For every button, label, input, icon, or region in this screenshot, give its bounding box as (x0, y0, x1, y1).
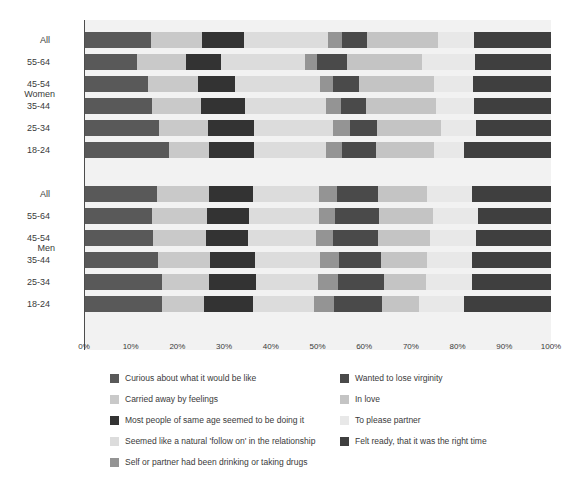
bar-segment (148, 76, 198, 92)
bar-row (84, 98, 551, 114)
x-tick-label: 50% (298, 342, 338, 351)
bar-segment (208, 120, 255, 136)
legend-item[interactable]: Most people of same age seemed to be doi… (110, 410, 315, 431)
legend-swatch-icon (340, 437, 349, 446)
bar-segment (209, 186, 253, 202)
bar-segment (333, 230, 378, 246)
bar-row (84, 54, 551, 70)
legend-swatch-icon (340, 416, 349, 425)
bar-segment (335, 208, 379, 224)
bar-segment (84, 252, 158, 268)
legend-swatch-icon (110, 458, 119, 467)
category-label-women-18-24: 18-24 (0, 145, 50, 155)
bar-segment (472, 186, 551, 202)
stacked-bar-chart: All55-6445-5435-4425-3418-24All55-6445-5… (0, 0, 569, 486)
bar-segment (209, 274, 256, 290)
bar-segment (347, 54, 422, 70)
bar-segment (84, 98, 152, 114)
category-label-men-45-54: 45-54 (0, 233, 50, 243)
bar-segment (162, 274, 210, 290)
bar-segment (157, 186, 209, 202)
bar-segment (475, 54, 551, 70)
bar-segment (436, 98, 474, 114)
x-tick-label: 30% (204, 342, 244, 351)
legend-item[interactable]: Seemed like a natural 'follow on' in the… (110, 431, 315, 452)
bar-segment (253, 186, 319, 202)
bar-segment (207, 208, 249, 224)
legend-item[interactable]: Wanted to lose virginity (340, 368, 487, 389)
bar-segment (84, 186, 157, 202)
x-axis-ticks: 0%10%20%30%40%50%60%70%80%90%100% (0, 342, 569, 356)
bar-segment (318, 274, 338, 290)
bar-segment (337, 186, 378, 202)
bar-segment (254, 142, 326, 158)
bar-segment (316, 230, 333, 246)
legend-item[interactable]: Carried away by feelings (110, 389, 315, 410)
bar-segment (202, 32, 244, 48)
bar-segment (317, 54, 347, 70)
bar-segment (464, 142, 551, 158)
bar-row (84, 76, 551, 92)
legend-item[interactable]: To please partner (340, 410, 487, 431)
bar-segment (342, 32, 367, 48)
x-tick-label: 10% (111, 342, 151, 351)
legend-item[interactable]: Curious about what it would be like (110, 368, 315, 389)
bar-segment (382, 296, 419, 312)
bar-segment (201, 98, 245, 114)
legend-swatch-icon (110, 374, 119, 383)
bar-segment (350, 120, 377, 136)
category-label-women-55-64: 55-64 (0, 57, 50, 67)
bar-segment (84, 54, 137, 70)
plot-area (84, 20, 551, 350)
bar-segment (326, 142, 342, 158)
x-tick-label: 70% (391, 342, 431, 351)
bar-segment (254, 120, 332, 136)
category-label-women-All: All (0, 35, 50, 45)
bar-segment (319, 186, 337, 202)
x-tick-label: 20% (157, 342, 197, 351)
x-tick-label: 0% (64, 342, 104, 351)
bar-segment (378, 186, 427, 202)
legend-label: Felt ready, that it was the right time (355, 437, 487, 446)
legend-item[interactable]: In love (340, 389, 487, 410)
legend-label: Carried away by feelings (125, 395, 218, 404)
bar-segment (472, 274, 551, 290)
bar-segment (159, 120, 208, 136)
bar-segment (158, 252, 209, 268)
bar-segment (84, 142, 169, 158)
bar-segment (84, 208, 152, 224)
bar-segment (152, 98, 201, 114)
bar-segment (305, 54, 317, 70)
legend-label: Curious about what it would be like (125, 374, 256, 383)
legend-swatch-icon (340, 374, 349, 383)
legend-label: In love (355, 395, 380, 404)
bar-segment (320, 76, 333, 92)
legend-item[interactable]: Self or partner had been drinking or tak… (110, 452, 315, 473)
bar-segment (433, 208, 478, 224)
bar-segment (210, 252, 255, 268)
bar-segment (84, 274, 162, 290)
bar-segment (430, 230, 477, 246)
bar-segment (474, 98, 551, 114)
bar-segment (84, 296, 162, 312)
bar-segment (333, 120, 350, 136)
legend-label: Self or partner had been drinking or tak… (125, 458, 307, 467)
legend-column-right: Wanted to lose virginityIn loveTo please… (340, 368, 487, 452)
bar-row (84, 296, 551, 312)
bar-segment (366, 98, 436, 114)
legend-label: Most people of same age seemed to be doi… (125, 416, 304, 425)
bar-segment (162, 296, 204, 312)
group-label-men: Men (0, 243, 55, 253)
bar-segment (253, 296, 314, 312)
bar-segment (221, 54, 305, 70)
x-tick-label: 40% (251, 342, 291, 351)
plot-wrapper: All55-6445-5435-4425-3418-24All55-6445-5… (0, 10, 569, 340)
bar-segment (326, 98, 341, 114)
bar-segment (319, 208, 335, 224)
bar-segment (341, 98, 365, 114)
bar-segment (427, 186, 472, 202)
legend-item[interactable]: Felt ready, that it was the right time (340, 431, 487, 452)
bar-segment (426, 274, 472, 290)
bar-segment (441, 120, 476, 136)
category-label-men-All: All (0, 189, 50, 199)
